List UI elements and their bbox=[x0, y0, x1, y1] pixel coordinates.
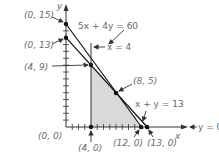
equation-label-5x-4y-60: 5x + 4y = 60 bbox=[78, 21, 138, 31]
point-label-12-0: (12, 0) bbox=[113, 138, 143, 148]
point-label-0-13: (0, 13) bbox=[24, 40, 54, 50]
y-axis-arrow-icon bbox=[64, 4, 69, 11]
origin-label: (0, 0) bbox=[38, 131, 62, 141]
x-axis-arrow-icon bbox=[181, 125, 188, 130]
equation-label-y-0: y = 0 bbox=[198, 122, 219, 132]
y-axis-label: y bbox=[56, 1, 63, 11]
point-label-0-15: (0, 15) bbox=[24, 10, 54, 20]
point-label-8-5: (8, 5) bbox=[133, 76, 157, 86]
equation-label-x-4: x = 4 bbox=[107, 42, 132, 52]
equation-label-x-y-13: x + y = 13 bbox=[135, 99, 184, 109]
point-label-13-0: (13, 0) bbox=[147, 138, 177, 148]
point-label-4-9: (4, 9) bbox=[24, 62, 48, 72]
x-axis-label: x bbox=[174, 131, 181, 141]
point-label-4-0: (4, 0) bbox=[78, 143, 102, 153]
linear-programming-graph: (0, 15) (0, 13) (4, 9) (8, 5) (0, 0) (4,… bbox=[0, 0, 219, 155]
